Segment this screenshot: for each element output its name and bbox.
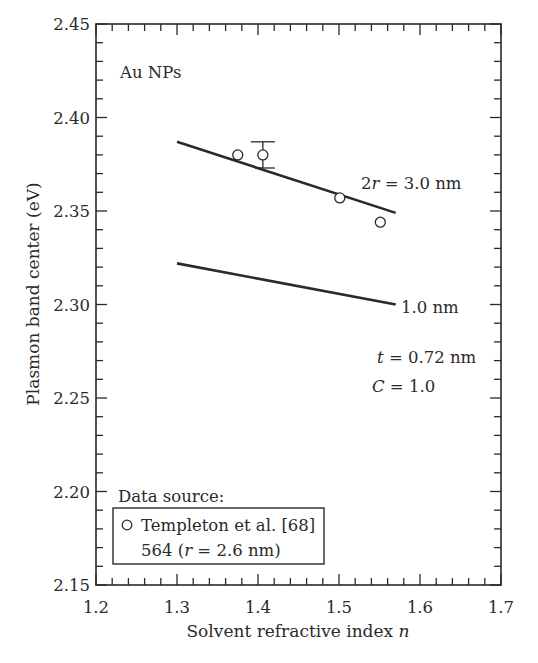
- data-point-open-circle: [335, 193, 345, 203]
- x-axis-title: Solvent refractive index n: [186, 621, 409, 641]
- data-point-open-circle: [233, 150, 243, 160]
- series-layer: [177, 142, 396, 305]
- series-line-1: [177, 263, 396, 304]
- y-tick-label: 2.35: [53, 202, 90, 221]
- param-t-label: t = 0.72 nm: [377, 348, 477, 367]
- line-1nm-label: 1.0 nm: [401, 298, 459, 317]
- legend-entry-line1: Templeton et al. [68]: [141, 516, 315, 535]
- y-tick-label: 2.40: [53, 109, 90, 128]
- legend: Templeton et al. [68] 564 (r = 2.6 nm): [113, 508, 324, 564]
- plasmon-band-chart: 1.21.31.41.51.61.72.152.202.252.302.352.…: [0, 0, 538, 663]
- data-point-open-circle: [258, 150, 268, 160]
- x-tick-label: 1.7: [488, 598, 514, 617]
- y-tick-label: 2.25: [53, 389, 90, 408]
- x-tick-label: 1.5: [326, 598, 352, 617]
- y-tick-label: 2.15: [53, 576, 90, 595]
- x-tick-label: 1.3: [164, 598, 190, 617]
- x-tick-label: 1.4: [245, 598, 271, 617]
- x-tick-label: 1.6: [407, 598, 433, 617]
- legend-entry-line2: 564 (r = 2.6 nm): [141, 541, 281, 560]
- legend-heading: Data source:: [118, 487, 224, 506]
- line-3nm-label: 2r = 3.0 nm: [361, 174, 462, 193]
- panel-label: Au NPs: [119, 63, 181, 82]
- data-point-open-circle: [375, 217, 385, 227]
- y-tick-label: 2.45: [53, 15, 90, 34]
- x-tick-label: 1.2: [83, 598, 109, 617]
- y-tick-label: 2.30: [53, 296, 90, 315]
- param-c-label: C = 1.0: [372, 377, 435, 396]
- y-axis-title: Plasmon band center (eV): [23, 182, 43, 405]
- y-tick-label: 2.20: [53, 483, 90, 502]
